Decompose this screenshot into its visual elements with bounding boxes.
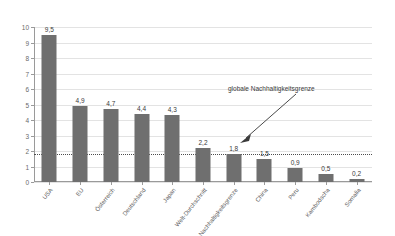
x-tick-label: EU xyxy=(75,187,85,197)
x-tick-mark xyxy=(80,182,81,185)
bar-slot: 0,5Kambodscha xyxy=(311,27,342,182)
plot-area: 012345678910 9,5USA4,9EU4,7Österreich4,4… xyxy=(34,27,372,182)
bar-slot: 4,7Österreich xyxy=(95,27,126,182)
bar-value-label: 4,7 xyxy=(106,100,115,107)
bar-value-label: 2,2 xyxy=(198,139,207,146)
x-tick-mark xyxy=(142,182,143,185)
bar-slot: 2,2Welt-Durchschnitt xyxy=(188,27,219,182)
bar[interactable] xyxy=(42,35,57,182)
y-tick-label: 10 xyxy=(22,24,29,31)
y-tick-label: 1 xyxy=(25,163,29,170)
x-tick-mark xyxy=(264,182,265,185)
x-tick-label: Deutschland xyxy=(121,187,146,217)
x-tick-mark xyxy=(203,182,204,185)
x-tick-mark xyxy=(326,182,327,185)
bar-value-label: 4,3 xyxy=(168,106,177,113)
bar-slot: 9,5USA xyxy=(34,27,65,182)
x-tick-mark xyxy=(111,182,112,185)
bar-slot: 4,9EU xyxy=(65,27,96,182)
bar-value-label: 0,5 xyxy=(321,165,330,172)
y-tick-label: 3 xyxy=(25,132,29,139)
bar-slot: 1,8Nachhaltigkeitsgrenze xyxy=(218,27,249,182)
bar-slot: 1,5China xyxy=(249,27,280,182)
bar-slot: 0,9Peru xyxy=(280,27,311,182)
y-tick-label: 9 xyxy=(25,39,29,46)
bar-value-label: 1,8 xyxy=(229,145,238,152)
x-tick-label: Kambodscha xyxy=(304,187,330,218)
x-tick-mark xyxy=(357,182,358,185)
bar-value-label: 4,9 xyxy=(76,97,85,104)
x-tick-label: Welt-Durchschnitt xyxy=(174,187,208,228)
bar[interactable] xyxy=(288,168,303,182)
bar-chart: 012345678910 9,5USA4,9EU4,7Österreich4,4… xyxy=(0,0,395,236)
bar-value-label: 4,4 xyxy=(137,105,146,112)
y-tick-label: 6 xyxy=(25,86,29,93)
bar[interactable] xyxy=(257,159,272,182)
y-tick-label: 7 xyxy=(25,70,29,77)
x-tick-label: Österreich xyxy=(94,187,116,213)
y-tick-label: 8 xyxy=(25,55,29,62)
x-tick-label: China xyxy=(255,187,269,203)
bar-slot: 4,4Deutschland xyxy=(126,27,157,182)
x-tick-label: Somalia xyxy=(343,187,361,208)
y-tick-label: 0 xyxy=(25,179,29,186)
x-tick-label: USA xyxy=(42,187,54,200)
y-tick-label: 5 xyxy=(25,101,29,108)
bar[interactable] xyxy=(103,109,118,182)
bar-value-label: 1,5 xyxy=(260,150,269,157)
x-tick-mark xyxy=(49,182,50,185)
y-tick-label: 4 xyxy=(25,117,29,124)
bar-value-label: 0,2 xyxy=(352,170,361,177)
bar[interactable] xyxy=(195,148,210,182)
x-tick-mark xyxy=(295,182,296,185)
bar[interactable] xyxy=(134,114,149,182)
x-tick-label: Japan xyxy=(162,187,177,204)
bar[interactable] xyxy=(165,115,180,182)
y-tick-label: 2 xyxy=(25,148,29,155)
bar[interactable] xyxy=(226,154,241,182)
y-tick-mark xyxy=(31,182,34,183)
bar-slot: 0,2Somalia xyxy=(341,27,372,182)
annotation-label-sustainability-limit: globale Nachhaltigkeitsgrenze xyxy=(228,85,315,92)
bars-group: 9,5USA4,9EU4,7Österreich4,4Deutschland4,… xyxy=(34,27,372,182)
x-tick-mark xyxy=(172,182,173,185)
bar[interactable] xyxy=(318,174,333,182)
bar-value-label: 0,9 xyxy=(291,159,300,166)
x-tick-label: Peru xyxy=(287,187,300,201)
x-tick-mark xyxy=(234,182,235,185)
bar-value-label: 9,5 xyxy=(45,26,54,33)
bar-slot: 4,3Japan xyxy=(157,27,188,182)
bar[interactable] xyxy=(73,106,88,182)
